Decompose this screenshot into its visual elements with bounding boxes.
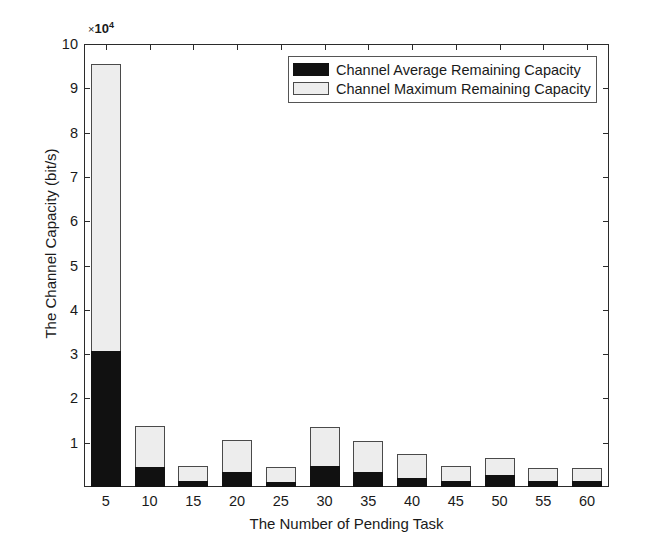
bar-group — [135, 44, 165, 487]
bar-group — [572, 44, 602, 487]
legend-label-average: Channel Average Remaining Capacity — [336, 62, 581, 78]
x-axis-tick-label: 30 — [305, 493, 345, 509]
bar-segment-average-capacity — [91, 351, 121, 487]
bar-segment-average-capacity — [178, 481, 208, 487]
x-axis-tick-label: 10 — [130, 493, 170, 509]
x-axis-tick-label: 45 — [436, 493, 476, 509]
y-axis-multiplier-base: 10 — [94, 21, 108, 36]
bar-group — [91, 44, 121, 487]
x-axis-tick-label: 35 — [348, 493, 388, 509]
bar-group — [266, 44, 296, 487]
bar-segment-average-capacity — [528, 481, 558, 487]
x-axis-tick-label: 25 — [261, 493, 301, 509]
chart-legend: Channel Average Remaining Capacity Chann… — [288, 56, 597, 103]
bar-segment-average-capacity — [266, 482, 296, 487]
legend-swatch-average-icon — [293, 63, 329, 76]
bar-segment-average-capacity — [397, 478, 427, 487]
bar-group — [178, 44, 208, 487]
bar-group — [397, 44, 427, 487]
bar-group — [441, 44, 471, 487]
bar-group — [310, 44, 340, 487]
x-axis-title: The Number of Pending Task — [84, 515, 609, 532]
legend-entry[interactable]: Channel Maximum Remaining Capacity — [293, 79, 591, 98]
legend-swatch-maximum-icon — [293, 82, 329, 95]
legend-entry[interactable]: Channel Average Remaining Capacity — [293, 60, 591, 79]
bar-segment-average-capacity — [572, 481, 602, 487]
x-axis-tick-label: 55 — [523, 493, 563, 509]
bar-segment-average-capacity — [222, 472, 252, 487]
bar-segment-average-capacity — [353, 472, 383, 487]
bar-segment-average-capacity — [135, 467, 165, 487]
x-axis-tick-label: 40 — [392, 493, 432, 509]
x-axis-tick-label: 5 — [86, 493, 126, 509]
bar-series-layer — [84, 44, 609, 487]
y-axis-multiplier-exponent: 4 — [109, 20, 114, 30]
legend-label-maximum: Channel Maximum Remaining Capacity — [336, 81, 591, 97]
bar-segment-average-capacity — [441, 481, 471, 487]
bar-group — [528, 44, 558, 487]
x-axis-tick-label: 60 — [567, 493, 607, 509]
bar-segment-average-capacity — [310, 466, 340, 487]
x-axis-tick-label: 20 — [217, 493, 257, 509]
y-axis-title: The Channel Capacity (bit/s) — [42, 14, 59, 474]
bar-group — [353, 44, 383, 487]
x-axis-tick-label: 50 — [480, 493, 520, 509]
figure-canvas: ×104 12345678910 51015202530354045505560… — [0, 0, 660, 552]
bar-segment-average-capacity — [485, 475, 515, 487]
y-axis-multiplier: ×104 — [88, 20, 114, 36]
bar-group — [222, 44, 252, 487]
x-axis-tick-label: 15 — [173, 493, 213, 509]
bar-group — [485, 44, 515, 487]
